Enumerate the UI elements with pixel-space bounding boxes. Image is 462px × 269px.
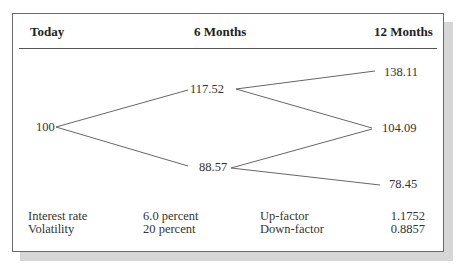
edge-100-117 <box>56 90 188 127</box>
edge-100-88 <box>56 127 188 166</box>
edge-117-104 <box>236 89 372 128</box>
node-6m-up: 117.52 <box>190 82 224 96</box>
param-volatility-label: Volatility <box>28 223 74 236</box>
node-12m-downdown: 78.45 <box>389 177 417 191</box>
edge-117-138 <box>236 71 375 89</box>
param-down-factor-label: Down-factor <box>260 223 324 236</box>
node-12m-upup: 138.11 <box>384 65 418 79</box>
node-today: 100 <box>36 120 55 134</box>
node-6m-down: 88.57 <box>199 160 227 174</box>
param-down-factor-value: 0.8857 <box>370 223 425 236</box>
param-volatility-value: 20 percent <box>143 223 195 236</box>
edge-88-104 <box>231 129 372 168</box>
node-12m-updown: 104.09 <box>382 121 416 135</box>
edge-88-78 <box>231 168 380 185</box>
